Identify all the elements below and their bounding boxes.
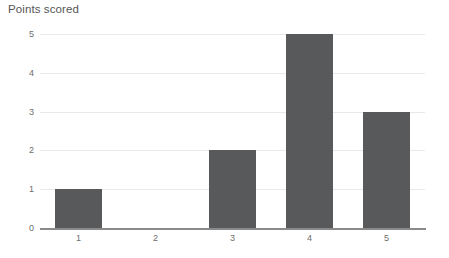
x-tick-label: 5 — [384, 233, 389, 243]
x-tick-label: 1 — [76, 233, 81, 243]
bar-chart: Points scored 012345 12345 — [0, 0, 449, 258]
x-tick-label: 3 — [230, 233, 235, 243]
x-tick-label: 4 — [307, 233, 312, 243]
x-tick-label: 2 — [153, 233, 158, 243]
x-axis: 12345 — [0, 0, 449, 258]
